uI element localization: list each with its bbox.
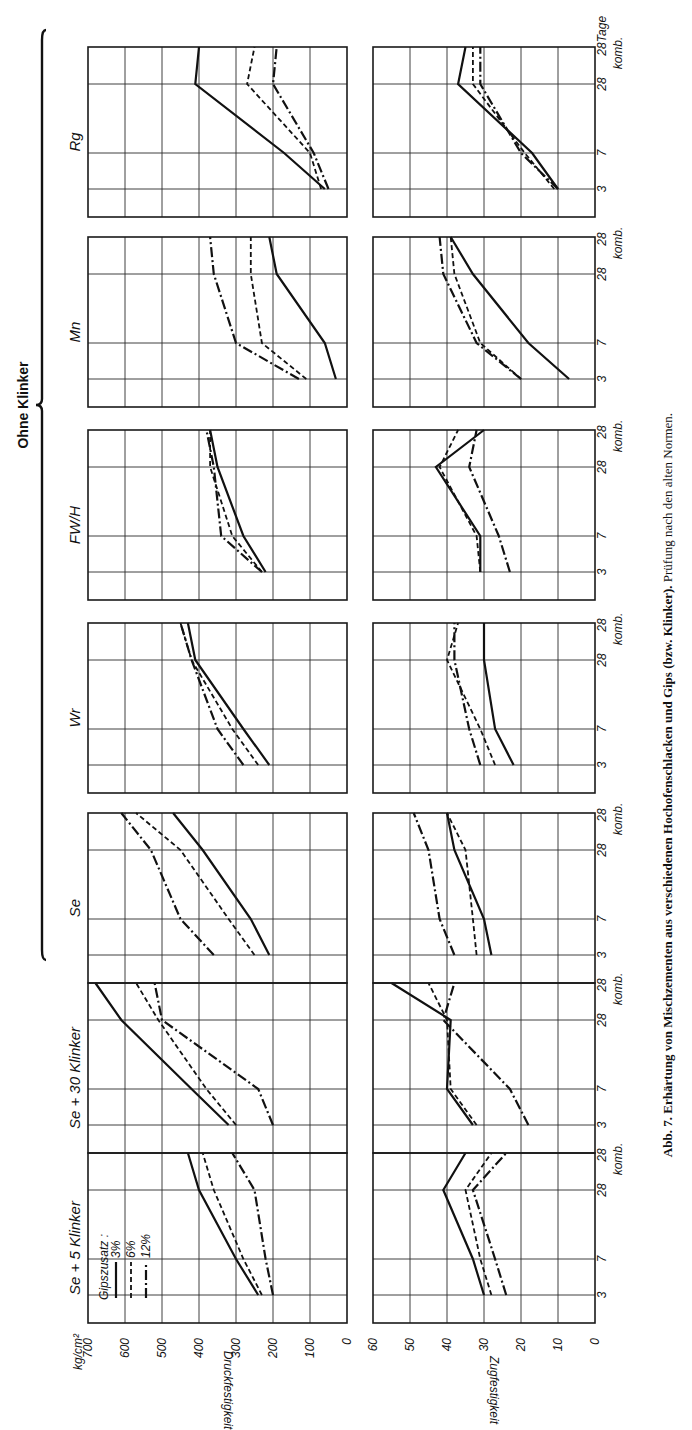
svg-text:28: 28 bbox=[595, 77, 609, 92]
panel-rg: 372828komb.TageRg bbox=[66, 16, 625, 217]
svg-text:28: 28 bbox=[595, 1183, 609, 1198]
series-6pct bbox=[136, 983, 236, 1125]
svg-text:500: 500 bbox=[155, 1338, 169, 1358]
svg-text:6%: 6% bbox=[124, 1240, 138, 1258]
time-ticks: 372828komb. bbox=[595, 613, 625, 769]
series-6pct bbox=[451, 237, 521, 379]
svg-text:3: 3 bbox=[595, 951, 609, 958]
figure-canvas: 372828komb.Se + 5 Klinker372828komb.Se +… bbox=[0, 0, 692, 1430]
panel-se: 372828komb.Se bbox=[66, 803, 625, 983]
zugfestigkeit-plot bbox=[373, 430, 595, 600]
svg-text:7: 7 bbox=[595, 1084, 609, 1092]
svg-text:28: 28 bbox=[595, 1013, 609, 1028]
series-6pct bbox=[440, 430, 481, 572]
svg-text:komb.: komb. bbox=[611, 1143, 625, 1176]
series-12pct bbox=[414, 813, 455, 955]
series-6pct bbox=[429, 983, 477, 1125]
time-ticks: 372828komb. bbox=[595, 420, 625, 576]
svg-text:7: 7 bbox=[595, 1254, 609, 1262]
zugfestigkeit-plot bbox=[373, 1153, 595, 1323]
svg-text:komb.: komb. bbox=[611, 973, 625, 1006]
zugfestigkeit-plot bbox=[373, 983, 595, 1153]
right-axis-label: Zugfestigkeit bbox=[487, 1355, 501, 1425]
ohne-klinker-brace: Ohne Klinker bbox=[15, 30, 46, 960]
svg-text:28: 28 bbox=[595, 653, 609, 668]
svg-text:3: 3 bbox=[595, 1121, 609, 1128]
panel-mn: 372828komb.Mn bbox=[66, 227, 625, 407]
svg-text:28: 28 bbox=[595, 460, 609, 475]
panel-se-5-klinker: 372828komb.Se + 5 Klinker bbox=[66, 1143, 625, 1323]
panel-title: FW/H bbox=[66, 506, 83, 544]
svg-text:28: 28 bbox=[595, 425, 609, 440]
time-ticks: 372828komb. bbox=[595, 973, 625, 1129]
svg-text:komb.: komb. bbox=[611, 227, 625, 260]
svg-text:7: 7 bbox=[595, 914, 609, 922]
svg-text:3: 3 bbox=[595, 375, 609, 382]
series-12pct bbox=[232, 1153, 273, 1295]
svg-text:komb.: komb. bbox=[611, 37, 625, 70]
chart-panels: 372828komb.Se + 5 Klinker372828komb.Se +… bbox=[66, 16, 625, 1323]
time-ticks: 372828komb. bbox=[595, 227, 625, 383]
svg-text:3: 3 bbox=[595, 1291, 609, 1298]
series-12pct bbox=[210, 237, 299, 379]
svg-text:28: 28 bbox=[595, 1148, 609, 1163]
series-12pct bbox=[440, 237, 521, 379]
panel-wr: 372828komb.Wr bbox=[66, 613, 625, 793]
svg-text:28: 28 bbox=[595, 232, 609, 247]
svg-text:7: 7 bbox=[595, 724, 609, 732]
series-12pct bbox=[121, 813, 214, 955]
series-3pct bbox=[173, 813, 269, 955]
unit-label: kg/cm² bbox=[71, 1333, 85, 1370]
zugfestigkeit-plot bbox=[373, 813, 595, 983]
series-12pct bbox=[480, 47, 558, 189]
series-6pct bbox=[203, 1153, 262, 1295]
panel-fw-h: 372828komb.FW/H bbox=[66, 420, 625, 600]
svg-text:28: 28 bbox=[595, 843, 609, 858]
panel-title: Mn bbox=[66, 322, 83, 343]
svg-text:0: 0 bbox=[340, 1338, 354, 1345]
svg-text:7: 7 bbox=[595, 148, 609, 156]
svg-text:3: 3 bbox=[595, 761, 609, 768]
series-12pct bbox=[469, 430, 510, 572]
svg-text:komb.: komb. bbox=[611, 613, 625, 646]
druckfestigkeit-plot bbox=[88, 813, 347, 983]
series-6pct bbox=[251, 237, 306, 379]
svg-text:10: 10 bbox=[551, 1338, 565, 1352]
druckfestigkeit-plot bbox=[88, 237, 347, 407]
svg-text:100: 100 bbox=[303, 1338, 317, 1358]
svg-text:0: 0 bbox=[588, 1338, 602, 1345]
svg-text:30: 30 bbox=[477, 1338, 491, 1352]
svg-text:28: 28 bbox=[595, 267, 609, 282]
series-3pct bbox=[451, 237, 569, 379]
druckfestigkeit-plot bbox=[88, 1153, 347, 1323]
svg-text:komb.: komb. bbox=[611, 803, 625, 836]
svg-text:3: 3 bbox=[595, 568, 609, 575]
series-12pct bbox=[454, 623, 480, 765]
value-axes: 01002003004005006007000102030405060kg/cm… bbox=[71, 1333, 602, 1430]
svg-text:28: 28 bbox=[595, 978, 609, 993]
series-3pct bbox=[195, 47, 324, 189]
time-ticks: 372828komb.Tage bbox=[595, 16, 625, 193]
svg-text:7: 7 bbox=[595, 531, 609, 539]
druckfestigkeit-plot bbox=[88, 430, 347, 600]
time-ticks: 372828komb. bbox=[595, 1143, 625, 1299]
series-3pct bbox=[447, 813, 491, 955]
svg-text:400: 400 bbox=[192, 1338, 206, 1358]
svg-text:12%: 12% bbox=[139, 1234, 153, 1258]
panel-title: Wr bbox=[66, 707, 83, 727]
svg-text:Abb. 7. Erhärtung von Mischzem: Abb. 7. Erhärtung von Mischzementen aus … bbox=[660, 413, 675, 1157]
series-3pct bbox=[188, 1153, 258, 1295]
svg-text:komb.: komb. bbox=[611, 420, 625, 453]
panel-title: Se + 5 Klinker bbox=[66, 1200, 83, 1295]
zugfestigkeit-plot bbox=[373, 47, 595, 217]
svg-text:Tage: Tage bbox=[595, 16, 609, 43]
series-3pct bbox=[484, 623, 514, 765]
left-axis-label: Druckfestigkeit bbox=[221, 1351, 235, 1430]
druckfestigkeit-plot bbox=[88, 47, 347, 217]
panel-se-30-klinker: 372828komb.Se + 30 Klinker bbox=[66, 973, 625, 1153]
time-ticks: 372828komb. bbox=[595, 803, 625, 959]
svg-text:28: 28 bbox=[595, 618, 609, 633]
svg-text:Ohne Klinker: Ohne Klinker bbox=[15, 361, 31, 449]
svg-text:50: 50 bbox=[403, 1338, 417, 1352]
panel-title: Se + 30 Klinker bbox=[66, 1026, 83, 1129]
